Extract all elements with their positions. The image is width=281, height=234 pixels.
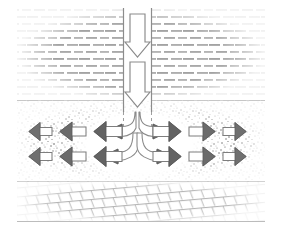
bedrock-edge-fade: [17, 182, 265, 222]
cross-section-svg: [0, 0, 281, 234]
bedrock-layer: [17, 182, 265, 222]
flow-diagram-figure: [0, 0, 281, 234]
